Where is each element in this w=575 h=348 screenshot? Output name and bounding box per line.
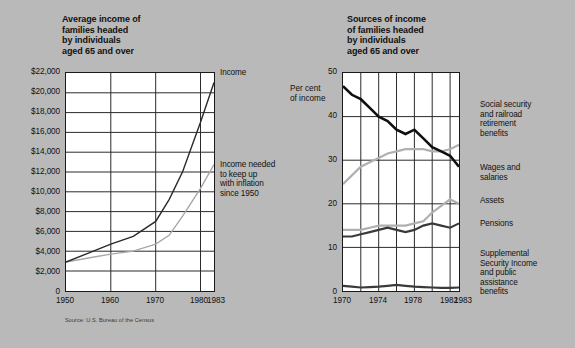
right-label-social-security: Social security and railroad retirement …	[480, 100, 566, 138]
left-ytick-6000: $6,000	[16, 227, 60, 236]
right-plot-area	[342, 72, 460, 292]
left-ytick-2000: $2,000	[16, 267, 60, 276]
left-plot-area	[65, 72, 215, 292]
left-ytick-20000: $20,000	[16, 87, 60, 96]
left-ytick-12000: $12,000	[16, 167, 60, 176]
left-xtick-1983: 1983	[201, 296, 231, 305]
left-chart-title: Average income of families headed by ind…	[62, 14, 222, 56]
left-xtick-1970: 1970	[140, 296, 170, 305]
left-xtick-1950: 1950	[50, 296, 80, 305]
right-axis-caption: Per cent of income	[290, 84, 346, 103]
left-plot-svg	[66, 73, 214, 291]
right-xtick-1983: 1983	[448, 296, 478, 305]
right-label-ssi: Supplemental Security Income and public …	[480, 249, 566, 297]
right-label-pensions: Pensions	[480, 219, 566, 229]
left-xtick-1960: 1960	[95, 296, 125, 305]
right-chart-panel: Sources of income of families headed by …	[285, 0, 575, 348]
right-xtick-1970: 1970	[327, 296, 357, 305]
left-ytick-10000: $10,000	[16, 187, 60, 196]
right-ytick-0: 0	[307, 287, 337, 296]
right-xtick-1978: 1978	[398, 296, 428, 305]
left-vertical-gridlines	[111, 73, 201, 291]
left-ytick-4000: $4,000	[16, 247, 60, 256]
figure-root: Average income of families headed by ind…	[0, 0, 575, 348]
right-ytick-10: 10	[307, 243, 337, 252]
left-series-inflation	[66, 165, 214, 263]
right-label-assets: Assets	[480, 196, 566, 206]
source-note: Source: U.S. Bureau of the Census	[65, 317, 154, 323]
right-vertical-gridlines	[361, 73, 450, 291]
right-chart-title: Sources of income of families headed by …	[347, 14, 517, 56]
right-ytick-30: 30	[307, 155, 337, 164]
right-xtick-1974: 1974	[363, 296, 393, 305]
left-label-inflation: Income needed to keep up with inflation …	[220, 160, 284, 198]
left-chart-panel: Average income of families headed by ind…	[0, 0, 285, 348]
left-ytick-22000: $22,000	[16, 67, 60, 76]
left-horizontal-gridlines	[66, 93, 214, 271]
left-ytick-0: 0	[16, 287, 60, 296]
left-ytick-14000: $14,000	[16, 147, 60, 156]
right-ytick-50: 50	[307, 67, 337, 76]
right-label-wages: Wages and salaries	[480, 163, 566, 182]
left-label-income: Income	[220, 68, 280, 78]
right-plot-svg	[343, 73, 459, 291]
left-ytick-18000: $18,000	[16, 107, 60, 116]
right-ytick-40: 40	[307, 111, 337, 120]
right-ytick-20: 20	[307, 199, 337, 208]
left-ytick-16000: $16,000	[16, 127, 60, 136]
left-ytick-8000: $8,000	[16, 207, 60, 216]
